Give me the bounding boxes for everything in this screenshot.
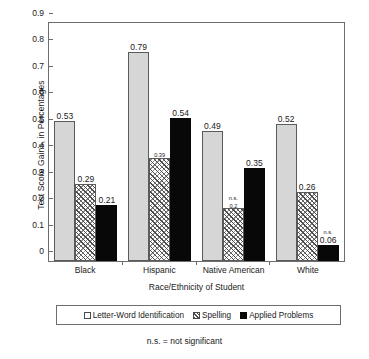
bar-slot: 0.29 [75, 23, 96, 261]
bar-letter[interactable]: 0.53 [54, 121, 75, 261]
chart-footnote: n.s. = not significant [0, 336, 369, 346]
y-axis-tick-label: 0.3 [32, 167, 49, 177]
x-axis-tick-labels: BlackHispanicNative AmericanWhite [48, 265, 345, 275]
bar-group: 0.520.260.06n.s. [270, 23, 344, 261]
bar-value-label: 0.53 [57, 111, 74, 121]
x-axis-category-label: Hispanic [122, 265, 196, 275]
bar-applied[interactable]: 0.35 [244, 168, 265, 261]
legend-item[interactable]: Spelling [193, 311, 231, 320]
bar-applied[interactable]: 0.21 [96, 205, 117, 261]
bar-value-label: 0.49 [204, 121, 221, 131]
bar-group: 0.490.2n.s.0.35 [197, 23, 271, 261]
bar-groups: 0.530.290.210.790.390.540.490.2n.s.0.350… [49, 23, 344, 261]
x-axis-title: Race/Ethnicity of Student [48, 282, 345, 292]
bar-value-label: 0.06 [320, 235, 337, 245]
bar-slot: 0.06n.s. [318, 23, 339, 261]
bar-applied[interactable]: 0.54 [170, 118, 191, 261]
chart-legend: Letter-Word IdentificationSpellingApplie… [56, 305, 341, 325]
y-axis-tick-label: 0.4 [32, 140, 49, 150]
bar-slot: 0.49 [202, 23, 223, 261]
bar-slot: 0.52 [276, 23, 297, 261]
y-axis-tick-label: 0.5 [32, 114, 49, 124]
y-axis-tick-label: 0.2 [32, 193, 49, 203]
x-axis-category-label: Black [48, 265, 122, 275]
open-square-swatch [84, 312, 91, 319]
bar-value-label: 0.54 [172, 108, 189, 118]
bar-slot: 0.21 [96, 23, 117, 261]
not-significant-marker: n.s. [229, 195, 238, 201]
bar-slot: 0.26 [297, 23, 318, 261]
bar-slot: 0.79 [128, 23, 149, 261]
bar-value-label: 0.26 [299, 182, 316, 192]
filled-square-swatch [240, 312, 247, 319]
legend-item[interactable]: Letter-Word Identification [84, 311, 184, 320]
bar-slot: 0.2n.s. [223, 23, 244, 261]
y-axis-tick-label: 0.9 [32, 8, 49, 18]
y-axis-tick-label: 0.7 [32, 61, 49, 71]
plot-inner: 00.10.20.30.40.50.60.70.80.9 0.530.290.2… [49, 23, 344, 261]
bar-spelling[interactable]: 0.26 [297, 192, 318, 261]
legend-item-label: Applied Problems [249, 311, 313, 320]
bar-slot: 0.54 [170, 23, 191, 261]
y-axis-tick-label: 0 [39, 246, 49, 256]
y-axis-tick-label: 0.8 [32, 34, 49, 44]
bar-group: 0.790.390.54 [123, 23, 197, 261]
bar-value-label: 0.21 [99, 195, 116, 205]
bar-value-label: 0.2 [229, 203, 237, 209]
bar-group: 0.530.290.21 [49, 23, 123, 261]
bar-letter[interactable]: 0.79 [128, 52, 149, 261]
bar-slot: 0.39 [149, 23, 170, 261]
legend-item-label: Letter-Word Identification [93, 311, 184, 320]
bar-slot: 0.35 [244, 23, 265, 261]
hatched-square-swatch [193, 312, 200, 319]
bar-applied[interactable]: 0.06n.s. [318, 245, 339, 261]
x-axis-category-label: White [271, 265, 345, 275]
legend-item-label: Spelling [202, 311, 231, 320]
legend-item[interactable]: Applied Problems [240, 311, 313, 320]
bar-value-label: 0.35 [246, 158, 263, 168]
bar-value-label: 0.39 [154, 152, 165, 158]
bar-value-label: 0.29 [78, 174, 95, 184]
y-axis-tick-label: 0.1 [32, 220, 49, 230]
bar-letter[interactable]: 0.52 [276, 124, 297, 262]
y-axis-tick-label: 0.6 [32, 87, 49, 97]
bar-spelling[interactable]: 0.2n.s. [223, 208, 244, 261]
x-axis-category-label: Native American [197, 265, 271, 275]
bar-letter[interactable]: 0.49 [202, 131, 223, 261]
bar-spelling[interactable]: 0.39 [149, 158, 170, 261]
plot-area: 00.10.20.30.40.50.60.70.80.9 0.530.290.2… [48, 22, 345, 262]
bar-slot: 0.53 [54, 23, 75, 261]
bar-spelling[interactable]: 0.29 [75, 184, 96, 261]
bar-chart-figure: Test Score Gains, in Percentages 00.10.2… [0, 0, 369, 359]
bar-value-label: 0.79 [130, 42, 147, 52]
not-significant-marker: n.s. [324, 229, 333, 235]
bar-value-label: 0.52 [278, 114, 295, 124]
